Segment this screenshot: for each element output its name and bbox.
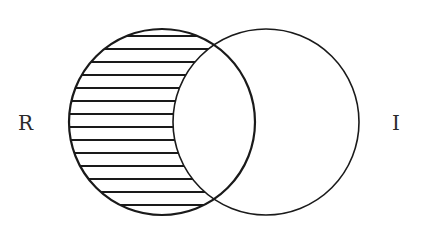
- set-r-label: R: [18, 111, 34, 135]
- venn-diagram: R I: [0, 0, 425, 229]
- set-i-label: I: [392, 111, 400, 135]
- set-r-circle: [69, 29, 255, 215]
- set-i-circle: [173, 29, 359, 215]
